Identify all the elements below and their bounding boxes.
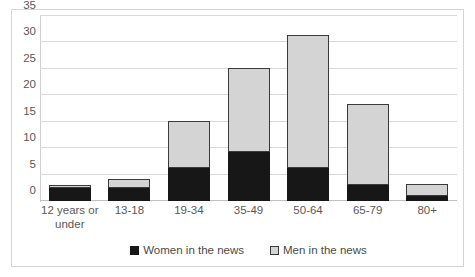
y-tick-label: 5 <box>10 158 36 169</box>
x-tick-label: 35-49 <box>219 204 279 218</box>
bar-segment-women[interactable] <box>347 185 389 201</box>
bar-segment-men[interactable] <box>347 104 389 185</box>
legend-entry[interactable]: Women in the news <box>130 244 244 256</box>
bar-segment-women[interactable] <box>228 152 270 201</box>
bar-group[interactable] <box>49 185 91 201</box>
x-tick-label: 19-34 <box>159 204 219 218</box>
bar-segment-men[interactable] <box>228 68 270 153</box>
legend-label: Women in the news <box>143 244 244 256</box>
bar-segment-men[interactable] <box>406 184 448 196</box>
legend-entry[interactable]: Men in the news <box>270 244 367 256</box>
bar-group[interactable] <box>347 104 389 201</box>
bar-segment-women[interactable] <box>168 168 210 201</box>
legend-swatch-icon <box>130 246 139 255</box>
bar-group[interactable] <box>108 179 150 201</box>
bar-segment-men[interactable] <box>287 35 329 169</box>
bar-group[interactable] <box>406 184 448 201</box>
bar-segment-women[interactable] <box>406 196 448 201</box>
chart-legend: Women in the newsMen in the news <box>40 241 457 259</box>
x-tick-label: 50-64 <box>278 204 338 218</box>
x-tick-label: 65-79 <box>338 204 398 218</box>
y-tick-label: 25 <box>10 52 36 63</box>
y-axis-tick-labels: 05101520253035 <box>8 16 36 201</box>
bar-segment-women[interactable] <box>108 188 150 201</box>
x-axis-tick-labels: 12 years or under13-1819-3435-4950-6465-… <box>40 204 457 238</box>
y-tick-label: 20 <box>10 79 36 90</box>
y-tick-label: 10 <box>10 132 36 143</box>
plot-area <box>40 16 457 201</box>
x-tick-label: 13-18 <box>100 204 160 218</box>
x-tick-label: 12 years or under <box>40 204 100 231</box>
y-tick-label: 30 <box>10 26 36 37</box>
bar-segment-women[interactable] <box>49 188 91 201</box>
legend-swatch-icon <box>270 246 279 255</box>
bar-group[interactable] <box>228 68 270 201</box>
bar-segment-men[interactable] <box>108 179 150 188</box>
bar-segment-women[interactable] <box>287 168 329 201</box>
bar-group[interactable] <box>287 35 329 202</box>
gridline-35 <box>40 15 457 16</box>
gridline-30 <box>40 41 457 42</box>
y-tick-label: 15 <box>10 105 36 116</box>
bar-group[interactable] <box>168 121 210 201</box>
legend-label: Men in the news <box>283 244 367 256</box>
y-tick-label: 35 <box>10 0 36 11</box>
x-tick-label: 80+ <box>397 204 457 218</box>
bar-segment-men[interactable] <box>168 121 210 169</box>
bar-chart: 05101520253035 12 years or under13-1819-… <box>0 0 475 277</box>
y-tick-label: 0 <box>10 185 36 196</box>
